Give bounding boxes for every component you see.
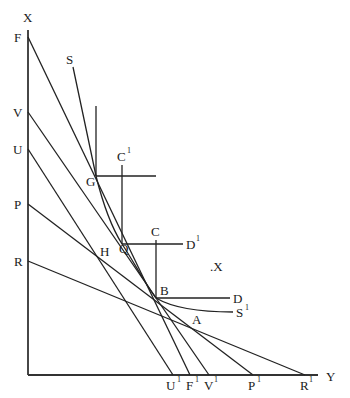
- label-X-point: .X: [210, 259, 223, 274]
- label-D: D: [233, 291, 242, 306]
- label-G: G: [86, 174, 95, 189]
- line-FF1: [28, 37, 190, 375]
- label-V1: V: [204, 378, 214, 393]
- label-B: B: [160, 283, 169, 298]
- label-C1-sup: 1: [127, 146, 131, 155]
- label-Q: Q: [119, 241, 129, 256]
- label-U1: U: [166, 378, 176, 393]
- label-U1-sup: 1: [177, 375, 181, 384]
- label-U: U: [13, 142, 23, 157]
- label-V: V: [13, 105, 23, 120]
- curve-SS1: [73, 67, 233, 312]
- label-S1: S: [236, 305, 243, 320]
- line-PP1: [28, 204, 253, 375]
- label-H: H: [100, 244, 109, 259]
- line-UU1: [28, 149, 173, 375]
- label-S1-sup: 1: [245, 303, 249, 312]
- label-F1-sup: 1: [195, 375, 199, 384]
- line-RR1: [28, 261, 305, 375]
- label-D1: D: [186, 237, 195, 252]
- label-C: C: [151, 224, 160, 239]
- label-R1: R: [300, 378, 309, 393]
- label-Y-axis: Y: [326, 369, 336, 384]
- label-D1-sup: 1: [196, 234, 200, 243]
- label-A: A: [192, 312, 202, 327]
- label-X-axis: X: [23, 10, 33, 25]
- label-P1: P: [248, 378, 255, 393]
- label-F: F: [14, 30, 21, 45]
- diagram-canvas: X Y F V U P R U 1 F 1 V 1 P 1 R 1 S S 1 …: [0, 0, 350, 398]
- label-C1: C: [117, 149, 126, 164]
- label-P: P: [14, 197, 21, 212]
- label-F1: F: [186, 378, 193, 393]
- label-V1-sup: 1: [214, 375, 218, 384]
- label-R: R: [14, 254, 23, 269]
- label-R1-sup: 1: [309, 375, 313, 384]
- label-P1-sup: 1: [257, 375, 261, 384]
- label-S: S: [66, 52, 73, 67]
